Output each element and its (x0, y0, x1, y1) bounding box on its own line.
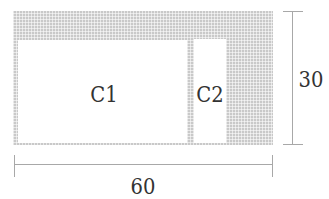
height-dimension-label: 30 (298, 68, 324, 91)
height-dimension-tick-top (283, 11, 303, 12)
width-dimension-label: 60 (129, 175, 156, 198)
cell-c1-label: C1 (90, 83, 116, 106)
cell-c2-label: C2 (196, 83, 225, 106)
height-dimension-tick-bottom (283, 144, 303, 145)
height-dimension-line (292, 11, 293, 145)
width-dimension-tick-left (14, 155, 15, 177)
width-dimension-tick-right (272, 155, 273, 177)
width-dimension-line (14, 164, 273, 165)
